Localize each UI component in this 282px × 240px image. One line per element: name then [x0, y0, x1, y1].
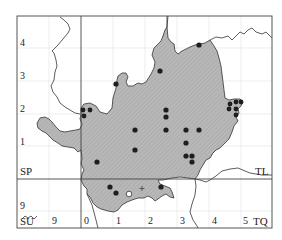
- grid-square-tq: TQ: [253, 216, 268, 226]
- grid-square-tl: TL: [255, 166, 268, 176]
- axis-label-3-bottom: 3: [180, 216, 185, 226]
- grid-square-su: SU: [20, 216, 34, 226]
- axis-label-0: 0: [84, 216, 89, 226]
- distribution-region: [37, 27, 243, 212]
- axis-label-1: 1: [20, 137, 25, 147]
- open-circle-marker: [126, 191, 132, 197]
- distribution-map: [0, 0, 282, 240]
- axis-label-2: 2: [20, 104, 25, 114]
- axis-label-9-left: 9: [20, 201, 25, 211]
- axis-label-4-bottom: 4: [212, 216, 217, 226]
- axis-label-2-bottom: 2: [148, 216, 153, 226]
- axis-label-5-bottom: 5: [243, 216, 248, 226]
- axis-label-3: 3: [20, 71, 25, 81]
- axis-label-9-bottom: 9: [52, 216, 57, 226]
- grid-square-sp: SP: [20, 166, 32, 176]
- axis-label-1-bottom: 1: [116, 216, 121, 226]
- axis-label-4: 4: [20, 38, 25, 48]
